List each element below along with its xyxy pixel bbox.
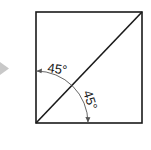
arc-arrowhead-top-icon: [37, 69, 43, 74]
arc-arrowhead-bottom-icon: [85, 117, 90, 123]
angle-label-lower: 45°: [80, 88, 100, 111]
angle-label-upper: 45°: [47, 60, 69, 78]
pointer-arrow-icon: [0, 62, 9, 75]
angle-diagram: 45° 45°: [0, 0, 151, 150]
